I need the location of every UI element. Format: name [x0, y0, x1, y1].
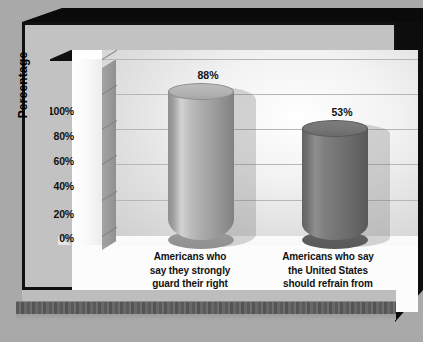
category-label-2-line-2: the United States	[258, 264, 398, 278]
bar-1-side	[168, 91, 234, 240]
bar-cylinder-1[interactable]	[168, 83, 250, 245]
plot-frame: 100% 80% 60% 40% 20% 0% 88% 53%	[22, 22, 396, 290]
bar-2-top-ellipse	[302, 120, 368, 137]
y-tick-label-100: 100%	[50, 105, 74, 117]
gridline-100	[102, 59, 418, 60]
category-label-2-line-3: should refrain from	[258, 277, 398, 291]
gridline-80	[102, 94, 418, 95]
value-label-bar-1: 88%	[178, 69, 238, 81]
plot-area: 100% 80% 60% 40% 20% 0% 88% 53%	[50, 50, 418, 312]
y-tick-label-0: 0%	[50, 232, 74, 244]
y-tick-label-60: 60%	[50, 155, 74, 167]
bottom-decorative-band	[16, 301, 396, 315]
y-tick-label-40: 40%	[50, 180, 74, 192]
category-label-1-line-2: say they strongly	[126, 264, 254, 278]
y-tick-label-20: 20%	[50, 208, 74, 220]
category-label-1-line-1: Americans who	[126, 250, 254, 264]
bar-2-side	[302, 128, 368, 240]
category-label-2-line-1: Americans who say	[258, 250, 398, 264]
y-tick-label-80: 80%	[50, 130, 74, 142]
y-axis-title: Percentage	[16, 30, 30, 140]
bar-cylinder-2[interactable]	[302, 120, 384, 245]
value-label-bar-2: 53%	[312, 106, 372, 118]
bottom-gap	[22, 290, 396, 301]
chart-figure: 100% 80% 60% 40% 20% 0% 88% 53%	[0, 0, 423, 342]
bottom-band-shadow	[16, 314, 396, 320]
category-label-1-line-3: guard their right	[126, 277, 254, 291]
bar-1-body	[168, 83, 234, 245]
bar-1-top-ellipse	[168, 83, 234, 100]
frame-top-bevel	[62, 8, 423, 22]
bar-2-body	[302, 120, 368, 245]
y-axis-tick-labels: 100% 80% 60% 40% 20% 0%	[50, 50, 122, 312]
